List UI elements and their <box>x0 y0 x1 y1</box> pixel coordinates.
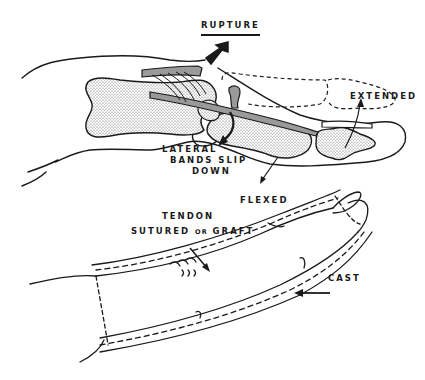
rupture-arrow <box>206 42 228 64</box>
label-lateral-bands-line2: BANDS SLIP <box>162 155 262 166</box>
suture-crease-4 <box>182 270 184 276</box>
suture-crease-6 <box>194 270 196 276</box>
label-tendon: TENDON <box>162 211 214 222</box>
label-sutured-or-graft: SUTURED OR GRAFT <box>131 226 254 238</box>
cast-bottom-outer <box>100 232 372 352</box>
label-lateral-bands: LATERAL BANDS SLIP DOWN <box>162 144 262 177</box>
suture-crease-2 <box>178 260 188 264</box>
label-extended: EXTENDED <box>350 91 417 102</box>
fingertip <box>333 192 361 213</box>
label-sutured: SUTURED <box>131 226 190 236</box>
knuckle-crease-2 <box>300 258 305 268</box>
label-cast: CAST <box>328 273 361 284</box>
wrist-line-1 <box>28 160 58 172</box>
flexed-arrow-head <box>260 176 266 184</box>
label-or: OR <box>195 228 208 236</box>
suture-crease-5 <box>188 270 190 276</box>
suture-crease-3 <box>186 258 196 262</box>
cast-padding-bottom <box>100 232 364 345</box>
wrist-line-2 <box>22 172 46 186</box>
suture-crease-1 <box>170 262 180 266</box>
terminal-tendon <box>322 121 372 128</box>
cast-top-inner <box>96 208 333 276</box>
label-flexed: FLEXED <box>240 195 288 206</box>
distal-phalanx-bone <box>316 127 375 159</box>
hand-outline-lower-top <box>30 275 96 284</box>
cast-tip-curve <box>348 200 368 232</box>
hand-outline-lower-bottom <box>80 340 104 362</box>
flexed-arrow-line <box>262 157 278 180</box>
illustration <box>0 0 425 380</box>
label-lateral-bands-line1: LATERAL <box>162 144 262 155</box>
label-graft: GRAFT <box>213 226 255 236</box>
label-lateral-bands-line3: DOWN <box>162 166 262 177</box>
boutonniere-deformity-diagram: RUPTURE EXTENDED LATERAL BANDS SLIP DOWN… <box>0 0 425 380</box>
label-rupture: RUPTURE <box>201 20 260 36</box>
cast-proximal-end <box>96 276 108 345</box>
ruptured-slip-stub <box>229 86 240 108</box>
